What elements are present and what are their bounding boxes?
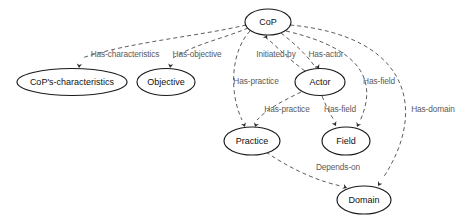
- edge-has-characteristics: [76, 25, 246, 68]
- edge-label-has-objective: Has-objective: [173, 49, 222, 59]
- edge-label-has-practice-actor: Has-practice: [264, 104, 310, 114]
- node-label-cop: CoP: [259, 17, 277, 27]
- node-practice[interactable]: Practice: [224, 127, 280, 155]
- arrowhead-icon: [332, 121, 339, 127]
- node-field[interactable]: Field: [322, 127, 370, 155]
- edge-label-has-practice-cop: Has-practice: [233, 76, 279, 86]
- node-label-objective: Objective: [147, 77, 185, 87]
- node-label-practice: Practice: [236, 136, 269, 146]
- edge-label-has-field-actor: Has-field: [324, 104, 356, 114]
- edge-label-has-actor: Has-actor: [308, 49, 343, 59]
- graph-svg: CoPCoP's-characteristicsObjectiveActorPr…: [0, 0, 474, 221]
- edge-label-has-characteristics: Has-characteristics: [91, 49, 160, 59]
- edge-label-has-field-cop: Has-field: [363, 76, 395, 86]
- node-label-actor: Actor: [309, 77, 330, 87]
- node-cop[interactable]: CoP: [245, 9, 291, 35]
- node-label-field: Field: [336, 136, 356, 146]
- arrowhead-icon: [376, 181, 383, 187]
- node-label-domain: Domain: [348, 195, 379, 205]
- arrowhead-icon: [167, 63, 173, 68]
- node-characteristics[interactable]: CoP's-characteristics: [17, 69, 127, 96]
- edge-label-depends-on: Depends-on: [316, 162, 361, 172]
- arrowhead-icon: [76, 64, 82, 69]
- node-domain[interactable]: Domain: [337, 186, 391, 214]
- node-actor[interactable]: Actor: [295, 69, 345, 96]
- arrowhead-icon: [355, 122, 361, 128]
- node-objective[interactable]: Objective: [137, 69, 195, 96]
- edge-label-initiated-by: Initiated-by: [256, 49, 296, 59]
- node-label-characteristics: CoP's-characteristics: [30, 77, 115, 87]
- edge-labels-layer: Has-characteristicsHas-objectiveInitiate…: [91, 49, 456, 172]
- edge-label-has-domain: Has-domain: [411, 104, 455, 114]
- ontology-diagram: CoPCoP's-characteristicsObjectiveActorPr…: [0, 0, 474, 221]
